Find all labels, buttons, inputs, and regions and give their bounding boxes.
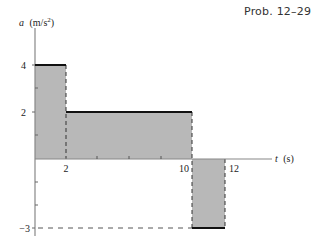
area-segment-10-12: [192, 159, 225, 228]
x-axis-unit: (s): [283, 153, 294, 165]
x-tick-label-10: 10: [179, 163, 189, 174]
y-axis-var: a: [19, 17, 24, 28]
y-tick-label-4: 4: [21, 60, 26, 71]
y-tick-label-neg3: −3: [19, 223, 30, 234]
acceleration-time-chart: 4 2 −3 2 10 12 a (m/s2) t (s): [0, 0, 320, 244]
area-segment-0-2: [35, 65, 66, 159]
y-axis-close: ): [51, 17, 54, 29]
x-axis-var: t: [275, 153, 278, 164]
x-tick-label-2: 2: [64, 163, 69, 174]
area-segment-2-10: [66, 112, 192, 159]
y-axis-label: a (m/s2): [19, 16, 54, 29]
x-axis-label: t (s): [275, 153, 294, 165]
y-tick-label-2: 2: [21, 107, 26, 118]
x-tick-label-12: 12: [229, 163, 239, 174]
y-axis-unit: (m/s: [30, 17, 48, 29]
